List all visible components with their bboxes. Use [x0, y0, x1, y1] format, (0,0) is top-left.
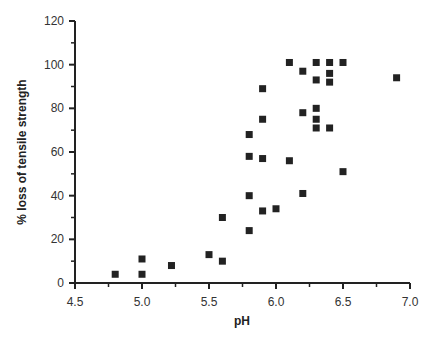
- axes: 0204060801001204.55.05.56.06.57.0: [44, 14, 419, 309]
- data-point: [326, 70, 333, 77]
- y-tick-label: 40: [51, 189, 65, 203]
- data-point: [340, 59, 347, 66]
- data-point: [313, 76, 320, 83]
- y-tick-label: 60: [51, 145, 65, 159]
- x-tick-label: 6.5: [335, 295, 352, 309]
- data-point: [168, 262, 175, 269]
- y-tick-label: 120: [44, 14, 64, 28]
- data-point: [219, 258, 226, 265]
- data-point: [219, 214, 226, 221]
- data-point: [259, 116, 266, 123]
- data-point: [313, 124, 320, 131]
- data-point: [206, 251, 213, 258]
- data-point: [259, 207, 266, 214]
- data-point: [139, 255, 146, 262]
- y-axis-title: % loss of tensile strength: [15, 79, 29, 224]
- x-tick-label: 5.0: [134, 295, 151, 309]
- data-point: [326, 124, 333, 131]
- data-point: [273, 205, 280, 212]
- y-tick-label: 20: [51, 232, 65, 246]
- x-tick-label: 6.0: [268, 295, 285, 309]
- y-tick-label: 80: [51, 101, 65, 115]
- x-axis-title: pH: [234, 314, 250, 328]
- x-tick-label: 4.5: [67, 295, 84, 309]
- y-tick-label: 0: [57, 276, 64, 290]
- data-point: [313, 59, 320, 66]
- data-point: [246, 131, 253, 138]
- data-point: [112, 271, 119, 278]
- data-point: [259, 85, 266, 92]
- data-point: [286, 157, 293, 164]
- data-point: [299, 190, 306, 197]
- scatter-chart: 0204060801001204.55.05.56.06.57.0 pH % l…: [0, 0, 432, 350]
- y-tick-label: 100: [44, 58, 64, 72]
- data-point: [326, 79, 333, 86]
- data-point: [246, 227, 253, 234]
- data-point: [246, 153, 253, 160]
- data-point: [286, 59, 293, 66]
- data-point: [313, 116, 320, 123]
- data-point: [313, 105, 320, 112]
- data-point: [139, 271, 146, 278]
- x-tick-label: 5.5: [201, 295, 218, 309]
- data-point: [299, 68, 306, 75]
- data-point: [259, 155, 266, 162]
- data-point: [326, 59, 333, 66]
- data-point: [340, 168, 347, 175]
- data-point: [299, 109, 306, 116]
- x-tick-label: 7.0: [402, 295, 419, 309]
- data-point: [246, 192, 253, 199]
- data-points: [112, 59, 400, 278]
- data-point: [393, 74, 400, 81]
